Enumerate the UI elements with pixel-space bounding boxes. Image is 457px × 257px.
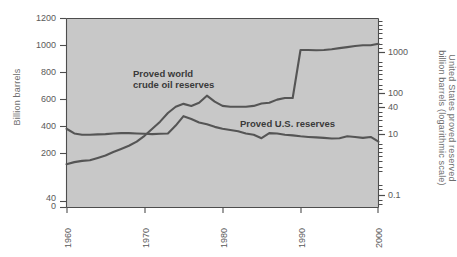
y-tick-left-1000: 1000 [22, 40, 56, 50]
x-tick-1960: 1960 [63, 228, 73, 248]
y-tick-left-400: 400 [22, 121, 56, 131]
x-tick-1990: 1990 [297, 228, 307, 248]
y-tick-right-40: 40 [388, 102, 422, 112]
y-tick-right-10: 10 [388, 129, 422, 139]
x-axis-ticks [67, 208, 378, 214]
y-tick-right-100: 100 [388, 88, 422, 98]
y-tick-left-600: 600 [22, 94, 56, 104]
y-tick-left-1200: 1200 [22, 13, 56, 23]
y-axis-left-ticks [60, 19, 67, 208]
y-axis-right-ticks [379, 22, 386, 205]
y-tick-left-200: 200 [22, 148, 56, 158]
world-reserves-annotation: Proved world crude oil reserves [133, 68, 214, 90]
x-tick-1970: 1970 [141, 228, 151, 248]
us-reserves-annotation-line1: Proved U.S. reserves [240, 118, 335, 129]
y-tick-right-0.1: 0.1 [388, 190, 422, 200]
world-reserves-annotation-line2: crude oil reserves [133, 79, 214, 90]
y-tick-left-0: 0 [22, 201, 56, 211]
y-tick-right-1000: 1000 [388, 47, 422, 57]
x-tick-2000: 2000 [374, 228, 384, 248]
y-tick-left-800: 800 [22, 67, 56, 77]
world-reserves-annotation-line1: Proved world [133, 68, 214, 79]
x-tick-1980: 1980 [219, 228, 229, 248]
us-reserves-annotation: Proved U.S. reserves [240, 118, 335, 129]
plot-area-background [67, 19, 379, 208]
